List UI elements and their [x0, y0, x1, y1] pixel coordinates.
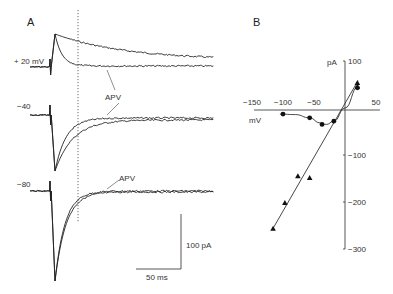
apv-annotation-1: APV [105, 93, 122, 102]
scale-bar-x-label: 50 ms [146, 273, 168, 282]
holding-label-plus20: + 20 mV [14, 57, 45, 66]
data-point-circle [320, 122, 325, 127]
x-axis-label: mV [249, 116, 262, 125]
panel-a: A + 20 mV −40 −80 APV APV 100 pA 50 ms [14, 10, 213, 282]
y-tick-label: −100 [348, 151, 367, 160]
trace-control [30, 181, 213, 281]
figure: A + 20 mV −40 −80 APV APV 100 pA 50 ms B… [0, 0, 393, 294]
data-point-circle [281, 112, 286, 117]
y-tick-label: −200 [348, 198, 367, 207]
data-point-triangle [295, 173, 301, 178]
trace-control [30, 34, 213, 75]
apv-leader-down [107, 103, 119, 115]
trace-apv [30, 34, 213, 75]
data-point-triangle [307, 175, 313, 180]
x-tick-label: −100 [274, 98, 293, 107]
scale-bar: 100 pA 50 ms [136, 214, 212, 282]
data-point-circle [307, 115, 312, 120]
y-axis-label: pA [327, 58, 337, 67]
y-tick-label: 100 [348, 57, 362, 66]
apv-annotation-2: APV [119, 174, 136, 183]
panel-a-label: A [27, 16, 35, 28]
panel-b-label: B [253, 16, 260, 28]
x-tick-label: −150 [243, 98, 262, 107]
panel-b: B −150−100−5050100−100−200−300 mV pA [243, 16, 381, 254]
holding-label-minus40: −40 [17, 102, 31, 111]
apv-leader-3 [107, 180, 119, 189]
holding-label-minus80: −80 [17, 180, 31, 189]
trace-apv [30, 105, 213, 171]
y-tick-label: −300 [348, 245, 367, 254]
apv-leader-up [107, 70, 115, 90]
data-point-triangle [282, 200, 288, 205]
data-point-triangle [270, 226, 276, 231]
x-tick-label: −50 [307, 98, 321, 107]
data-point-circle [331, 119, 336, 124]
iv-axes: −150−100−5050100−100−200−300 [243, 57, 381, 254]
x-tick-label: 50 [372, 98, 381, 107]
scale-bar-y-label: 100 pA [186, 241, 212, 250]
